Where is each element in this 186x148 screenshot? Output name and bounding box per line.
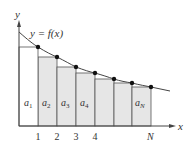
y-axis-arrow-icon bbox=[17, 20, 21, 27]
y-axis-label: y bbox=[14, 8, 20, 20]
first-rectangle bbox=[19, 47, 38, 126]
tick-label-3: 3 bbox=[74, 131, 79, 142]
curve-label: y = f(x) bbox=[29, 27, 63, 40]
integral-test-diagram: y x y = f(x) a1 a2 a3 a4 aN 1 2 3 4 N bbox=[0, 0, 186, 148]
tick-label-2: 2 bbox=[55, 131, 60, 142]
tick-label-4: 4 bbox=[93, 131, 98, 142]
tick-label-N: N bbox=[146, 131, 155, 142]
tick-label-1: 1 bbox=[36, 131, 41, 142]
x-axis-label: x bbox=[177, 120, 183, 132]
shaded-rectangles bbox=[38, 57, 151, 126]
x-axis-arrow-icon bbox=[169, 124, 176, 128]
